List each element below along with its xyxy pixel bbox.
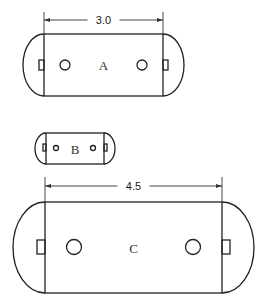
arrow-left-icon — [45, 184, 51, 188]
right-rounded-end — [163, 34, 184, 96]
shape-a: A3.0 — [23, 12, 184, 96]
diagram-canvas: A3.0BC4.5 — [0, 0, 268, 308]
shape-label: A — [99, 58, 109, 73]
left-rounded-end — [13, 202, 45, 293]
mounting-hole — [91, 146, 96, 151]
mounting-hole — [54, 146, 59, 151]
terminal-tab — [39, 60, 44, 70]
terminal-tab — [37, 240, 45, 254]
dimension-c: 4.5 — [45, 177, 222, 202]
shapes-drawing: A3.0BC4.5 — [0, 0, 268, 308]
arrow-left-icon — [44, 18, 50, 22]
terminal-tab — [104, 144, 107, 151]
shape-label: C — [129, 241, 138, 256]
right-rounded-end — [104, 133, 115, 164]
mounting-hole — [67, 240, 82, 255]
terminal-tab — [43, 144, 46, 151]
terminal-tab — [163, 60, 168, 70]
left-rounded-end — [23, 34, 44, 96]
shape-label: B — [71, 142, 80, 157]
terminal-tab — [222, 240, 230, 254]
dimension-a: 3.0 — [44, 12, 163, 34]
shape-c: C4.5 — [13, 177, 254, 293]
mounting-hole — [186, 240, 201, 255]
right-rounded-end — [222, 202, 254, 293]
arrow-right-icon — [157, 18, 163, 22]
dimension-value: 4.5 — [126, 180, 141, 192]
dimension-value: 3.0 — [96, 14, 111, 26]
arrow-right-icon — [216, 184, 222, 188]
mounting-hole — [137, 60, 147, 70]
mounting-hole — [60, 60, 70, 70]
shape-b: B — [35, 133, 115, 164]
left-rounded-end — [35, 133, 46, 164]
